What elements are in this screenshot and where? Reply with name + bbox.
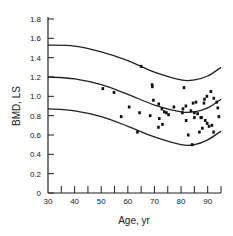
- y-tick-label: 1.2: [30, 73, 42, 82]
- data-point: [173, 105, 176, 108]
- data-point: [185, 119, 188, 122]
- x-tick-label: 50: [97, 197, 106, 206]
- data-point: [102, 87, 105, 90]
- data-point: [136, 131, 139, 134]
- y-tick-label: 0.8: [30, 112, 42, 121]
- data-point: [120, 115, 123, 118]
- x-tick-label: 70: [150, 197, 159, 206]
- data-point: [195, 101, 198, 104]
- y-tick-label: 1.4: [30, 54, 42, 63]
- data-point: [218, 115, 221, 118]
- x-tick-label: 60: [123, 197, 132, 206]
- reference-curve-upper: [48, 45, 221, 81]
- y-tick-label: 0.4: [30, 150, 42, 159]
- x-tick-label: 40: [70, 197, 79, 206]
- x-axis-label: Age, yr: [118, 215, 150, 226]
- y-tick-label: 0: [37, 189, 42, 198]
- data-point: [213, 97, 216, 100]
- y-tick-label: 1.6: [30, 34, 42, 43]
- data-point: [128, 105, 131, 108]
- data-point: [217, 106, 220, 109]
- data-point: [183, 86, 186, 89]
- data-point: [140, 65, 143, 68]
- data-point: [161, 123, 164, 126]
- chart: 00.20.40.60.81.01.21.41.61.8304050607080…: [0, 0, 233, 236]
- data-point: [158, 117, 161, 120]
- x-tick-label: 90: [203, 197, 212, 206]
- y-tick-label: 0.6: [30, 131, 42, 140]
- data-point: [215, 101, 218, 104]
- x-tick-label: 80: [177, 197, 186, 206]
- data-point: [212, 131, 215, 134]
- data-point: [192, 102, 195, 105]
- data-point: [210, 90, 213, 93]
- plot-area: 00.20.40.60.81.01.21.41.61.8304050607080…: [30, 15, 221, 206]
- reference-curve-mean: [48, 77, 221, 112]
- data-point: [181, 111, 184, 114]
- data-point: [182, 107, 185, 110]
- data-point: [191, 143, 194, 146]
- data-point: [203, 98, 206, 101]
- data-point: [200, 116, 203, 119]
- data-point: [167, 113, 170, 116]
- data-point: [206, 95, 209, 98]
- data-point: [187, 134, 190, 137]
- data-point: [203, 102, 206, 105]
- data-point: [185, 105, 188, 108]
- data-point: [201, 127, 204, 130]
- data-point: [211, 124, 214, 127]
- y-axis-label: BMD, LS: [11, 86, 22, 126]
- x-tick-label: 30: [44, 197, 53, 206]
- data-point: [193, 111, 196, 114]
- data-point: [138, 111, 141, 114]
- data-point: [151, 85, 154, 88]
- data-point: [208, 125, 211, 128]
- data-point: [161, 107, 164, 110]
- y-tick-label: 1.0: [30, 92, 42, 101]
- data-point: [193, 116, 196, 119]
- data-point: [198, 131, 201, 134]
- data-point: [196, 112, 199, 115]
- data-point: [206, 122, 209, 125]
- data-point: [113, 91, 116, 94]
- data-point: [190, 109, 193, 112]
- data-point: [157, 126, 160, 129]
- y-tick-label: 1.8: [30, 15, 42, 24]
- data-point: [157, 103, 160, 106]
- reference-curve-lower: [48, 109, 221, 146]
- data-point: [204, 119, 207, 122]
- data-point: [149, 114, 152, 117]
- data-point: [152, 99, 155, 102]
- y-tick-label: 0.2: [30, 170, 42, 179]
